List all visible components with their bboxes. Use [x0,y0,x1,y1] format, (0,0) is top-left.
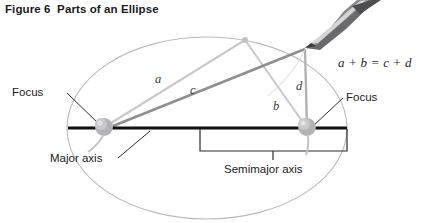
focus-pin-right [298,118,316,155]
leader-line-focus-right [313,98,343,126]
string-path-a [103,40,245,128]
string-apex-node [242,37,248,43]
label-segment-a: a [155,72,161,87]
diagram-canvas [0,0,425,223]
semimajor-axis-bracket [200,129,347,151]
focus-pin-left [88,118,113,152]
equation-a-plus-b-equals-c-plus-d: a + b = c + d [338,55,412,71]
leader-line-focus-left [67,93,99,124]
label-segment-c: c [190,83,196,98]
label-semimajor-axis: Semimajor axis [224,163,303,175]
label-major-axis: Major axis [50,152,102,164]
figure-ellipse-diagram: Figure 6 Parts of an Ellipse [0,0,425,223]
label-focus-left: Focus [12,86,43,98]
string-path-d [305,49,307,128]
label-segment-b: b [273,99,279,114]
leader-line-major-axis [118,131,150,158]
label-focus-right: Focus [346,91,377,103]
pencil-icon [305,0,381,50]
label-segment-d: d [296,79,302,94]
